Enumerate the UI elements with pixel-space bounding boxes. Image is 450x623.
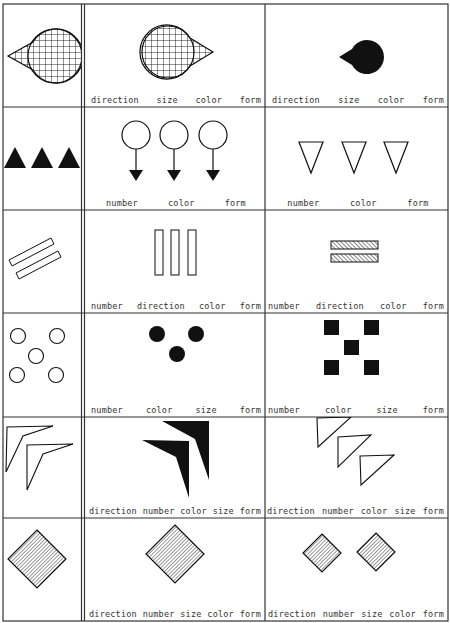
attribute-labels: number direction color form — [268, 301, 444, 311]
attribute-label: size — [361, 609, 382, 619]
row-4-reference-cell — [3, 313, 81, 417]
attribute-label: number — [143, 609, 175, 619]
row-5-reference-cell — [3, 417, 81, 518]
row-5-variant-2-cell: direction number color size form — [266, 417, 448, 518]
attribute-label: form — [423, 609, 444, 619]
attribute-label: number — [91, 405, 123, 415]
row-4-variant-2-cell: number color size form — [266, 313, 448, 417]
row-1-variant-2-cell: direction size color form — [266, 4, 448, 107]
attribute-label: color — [207, 609, 234, 619]
attribute-label: direction — [268, 609, 316, 619]
attribute-label: form — [423, 506, 444, 516]
attribute-label: number — [268, 405, 300, 415]
bars-horizontal-hatched-icon — [266, 210, 448, 313]
attribute-label: size — [338, 95, 359, 105]
attribute-label: color — [350, 198, 377, 208]
attribute-label: number — [143, 506, 175, 516]
attribute-label: size — [394, 506, 415, 516]
attribute-label: number — [268, 301, 300, 311]
squares-five-solid-icon — [266, 313, 448, 417]
attribute-label: form — [423, 301, 444, 311]
right-triangles-outline-icon — [266, 417, 448, 518]
row-1-reference-cell — [3, 4, 81, 107]
attribute-label: number — [322, 506, 354, 516]
attribute-labels: number direction color form — [91, 301, 261, 311]
attribute-labels: number color size form — [91, 405, 261, 415]
attribute-label: size — [213, 506, 234, 516]
attribute-label: form — [407, 198, 428, 208]
chevrons-solid-icon — [85, 417, 265, 518]
attribute-label: form — [240, 405, 261, 415]
attribute-label: size — [195, 405, 216, 415]
attribute-labels: direction number size color form — [89, 609, 261, 619]
attribute-label: form — [225, 198, 246, 208]
attribute-label: size — [157, 95, 178, 105]
bars-vertical-outline-icon — [85, 210, 265, 313]
teardrop-arrow-left-crosshatch-icon — [3, 4, 81, 107]
attribute-label: direction — [91, 95, 139, 105]
circles-five-outline-icon — [3, 313, 81, 417]
row-1-variant-1-cell: direction size color form — [85, 4, 265, 107]
triangles-up-solid-icon — [3, 107, 81, 210]
attribute-label: color — [199, 301, 226, 311]
attribute-labels: number color form — [272, 198, 444, 208]
attribute-label: direction — [89, 609, 137, 619]
attribute-label: number — [287, 198, 319, 208]
row-2-variant-2-cell: number color form — [266, 107, 448, 210]
attribute-labels: direction size color form — [272, 95, 444, 105]
diamonds-two-hatched-icon — [266, 518, 448, 621]
attribute-label: color — [389, 609, 416, 619]
attribute-label: direction — [316, 301, 364, 311]
attribute-label: size — [376, 405, 397, 415]
attribute-labels: direction number color size form — [89, 506, 261, 516]
attribute-label: direction — [272, 95, 320, 105]
row-2-variant-1-cell: number color form — [85, 107, 265, 210]
attribute-label: form — [423, 405, 444, 415]
attribute-label: color — [180, 506, 207, 516]
row-6-reference-cell — [3, 518, 81, 621]
diamond-hatched-icon — [3, 518, 81, 621]
attribute-label: form — [240, 506, 261, 516]
attribute-label: size — [180, 609, 201, 619]
attribute-label: direction — [137, 301, 185, 311]
lollipop-arrows-down-icon — [85, 107, 265, 210]
attribute-label: form — [423, 95, 444, 105]
attribute-label: number — [91, 301, 123, 311]
teardrop-arrow-right-crosshatch-icon — [85, 4, 265, 107]
attribute-label: color — [146, 405, 173, 415]
attribute-label: form — [240, 609, 261, 619]
row-5-variant-1-cell: direction number color size form — [85, 417, 265, 518]
attribute-labels: direction size color form — [91, 95, 261, 105]
row-3-variant-1-cell: number direction color form — [85, 210, 265, 313]
row-6-variant-2-cell: direction number size color form — [266, 518, 448, 621]
attribute-label: form — [240, 95, 261, 105]
attribute-label: color — [378, 95, 405, 105]
row-2-reference-cell — [3, 107, 81, 210]
attribute-labels: number color form — [91, 198, 261, 208]
row-6-variant-1-cell: direction number size color form — [85, 518, 265, 621]
attribute-label: number — [323, 609, 355, 619]
diamond-hatched-icon — [85, 518, 265, 621]
bars-diagonal-outline-icon — [3, 210, 81, 313]
attribute-label: color — [168, 198, 195, 208]
attribute-label: color — [325, 405, 352, 415]
attribute-label: direction — [267, 506, 315, 516]
teardrop-arrow-left-solid-icon — [266, 4, 448, 107]
attribute-label: color — [361, 506, 388, 516]
attribute-labels: direction number size color form — [268, 609, 444, 619]
attribute-label: number — [106, 198, 138, 208]
attribute-label: color — [380, 301, 407, 311]
chevrons-outline-icon — [3, 417, 81, 518]
attribute-label: form — [240, 301, 261, 311]
attribute-labels: number color size form — [268, 405, 444, 415]
circles-three-solid-icon — [85, 313, 265, 417]
triangles-down-outline-icon — [266, 107, 448, 210]
attribute-labels: direction number color size form — [267, 506, 444, 516]
row-4-variant-1-cell: number color size form — [85, 313, 265, 417]
attribute-label: direction — [89, 506, 137, 516]
attribute-label: color — [195, 95, 222, 105]
row-3-variant-2-cell: number direction color form — [266, 210, 448, 313]
row-3-reference-cell — [3, 210, 81, 313]
